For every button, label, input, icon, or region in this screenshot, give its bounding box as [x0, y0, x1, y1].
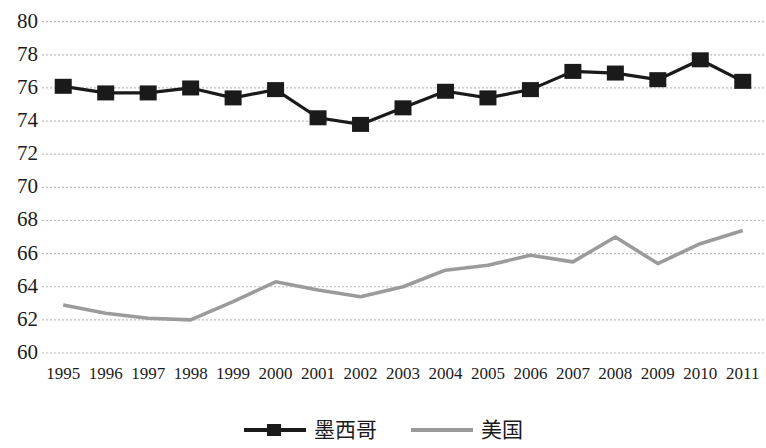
x-axis-tick-label: 2009: [641, 362, 675, 386]
x-axis-tick-label: 2004: [428, 362, 462, 386]
x-axis-tick-label: 2002: [344, 362, 378, 386]
y-axis-tick-label: 78: [0, 44, 38, 65]
plot-area: [42, 0, 764, 378]
x-axis-tick-label: 1995: [46, 362, 80, 386]
data-point-marker[interactable]: [692, 52, 709, 67]
x-axis-tick-label: 2006: [513, 362, 547, 386]
x-axis-tick-label: 1998: [174, 362, 208, 386]
x-axis-tick-label: 1996: [89, 362, 123, 386]
plot-svg: [42, 0, 764, 378]
x-axis: 1995199619971998199920002001200220032004…: [42, 362, 764, 392]
y-axis-tick-label: 74: [0, 110, 38, 131]
x-axis-tick-label: 2001: [301, 362, 335, 386]
x-axis-tick-label: 2010: [683, 362, 717, 386]
legend-entry-usa[interactable]: 美国: [411, 418, 523, 442]
data-point-marker[interactable]: [225, 90, 242, 105]
data-point-marker[interactable]: [395, 100, 412, 115]
y-axis-tick-label: 66: [0, 243, 38, 264]
y-axis-tick-label: 72: [0, 143, 38, 164]
x-axis-tick-label: 2005: [471, 362, 505, 386]
x-axis-tick-label: 2000: [259, 362, 293, 386]
legend-swatch-usa: [411, 423, 473, 437]
chart-legend: 墨西哥 美国: [0, 412, 766, 448]
y-axis-tick-label: 64: [0, 276, 38, 297]
data-point-marker[interactable]: [564, 64, 581, 79]
legend-entry-mexico[interactable]: 墨西哥: [244, 418, 377, 442]
series-line-usa: [63, 230, 743, 319]
legend-label-mexico: 墨西哥: [314, 418, 377, 442]
data-point-marker[interactable]: [522, 82, 539, 97]
y-axis-tick-label: 80: [0, 11, 38, 32]
x-axis-tick-label: 2008: [598, 362, 632, 386]
y-axis-tick-label: 62: [0, 309, 38, 330]
data-point-marker[interactable]: [55, 79, 72, 94]
line-chart: 8078767472706866646260 19951996199719981…: [0, 0, 766, 448]
data-point-marker[interactable]: [267, 82, 284, 97]
x-axis-tick-label: 2003: [386, 362, 420, 386]
legend-swatch-mexico: [244, 423, 306, 437]
y-axis-tick-label: 60: [0, 342, 38, 363]
y-axis-tick-label: 68: [0, 209, 38, 230]
y-axis: 8078767472706866646260: [0, 0, 38, 380]
data-point-marker[interactable]: [479, 90, 496, 105]
x-axis-tick-label: 2007: [556, 362, 590, 386]
data-point-marker[interactable]: [607, 66, 624, 81]
y-axis-tick-label: 70: [0, 176, 38, 197]
data-point-marker[interactable]: [310, 110, 327, 125]
data-point-marker[interactable]: [437, 84, 454, 99]
data-point-marker[interactable]: [97, 85, 114, 100]
x-axis-tick-label: 1997: [131, 362, 165, 386]
data-point-marker[interactable]: [734, 74, 751, 89]
data-point-marker[interactable]: [182, 80, 199, 95]
x-axis-tick-label: 2011: [726, 362, 759, 386]
y-axis-tick-label: 76: [0, 77, 38, 98]
legend-label-usa: 美国: [481, 418, 523, 442]
data-point-marker[interactable]: [649, 72, 666, 87]
data-point-marker[interactable]: [352, 117, 369, 132]
data-point-marker[interactable]: [140, 85, 157, 100]
x-axis-tick-label: 1999: [216, 362, 250, 386]
